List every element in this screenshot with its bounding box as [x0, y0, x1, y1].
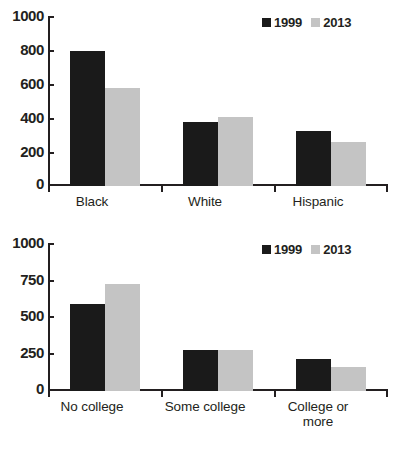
- x-tick-1-bottom: [161, 391, 163, 397]
- x-tick-2-top: [274, 186, 276, 192]
- y-label-0-bottom: 0: [36, 381, 44, 396]
- bar-hispanic-1999: [296, 131, 331, 186]
- y-label-400-top: 400: [20, 110, 44, 125]
- y-tick-800-top: [48, 50, 54, 52]
- y-axis-line-top: [48, 16, 50, 186]
- x-tick-3-bottom: [386, 391, 388, 397]
- x-tick-2-bottom: [274, 391, 276, 397]
- y-tick-750-bottom: [48, 280, 54, 282]
- x-category-label-no-college: No college: [37, 399, 147, 414]
- bar-college-or-more-1999: [296, 359, 331, 391]
- chart-panel-education: 1999 2013 1000 750 500 250 0: [0, 227, 403, 454]
- bar-no-college-2013: [105, 284, 140, 391]
- x-tick-0-top: [48, 186, 50, 192]
- bar-black-1999: [70, 51, 105, 186]
- y-label-250-bottom: 250: [20, 345, 44, 360]
- x-category-label-hispanic: Hispanic: [268, 194, 368, 209]
- y-tick-400-top: [48, 118, 54, 120]
- bar-no-college-1999: [70, 304, 105, 391]
- x-tick-3-top: [386, 186, 388, 192]
- x-category-label-some-college: Some college: [150, 399, 260, 414]
- y-label-1000-bottom: 1000: [12, 235, 44, 250]
- chart-panel-race: 1999 2013 1000 800 600 400 200 0: [0, 0, 403, 227]
- bar-some-college-2013: [218, 350, 253, 391]
- y-tick-1000-top: [48, 16, 54, 18]
- bar-white-2013: [218, 117, 253, 186]
- bar-black-2013: [105, 88, 140, 186]
- bar-white-1999: [183, 122, 218, 186]
- y-tick-600-top: [48, 84, 54, 86]
- chart-page: 1999 2013 1000 800 600 400 200 0: [0, 0, 403, 454]
- x-category-label-white: White: [155, 194, 255, 209]
- y-tick-1000-bottom: [48, 243, 54, 245]
- y-tick-500-bottom: [48, 316, 54, 318]
- plot-area-education: 1000 750 500 250 0: [48, 243, 388, 391]
- plot-area-race: 1000 800 600 400 200 0: [48, 16, 388, 186]
- bar-hispanic-2013: [331, 142, 366, 186]
- bar-some-college-1999: [183, 350, 218, 391]
- bar-college-or-more-2013: [331, 367, 366, 391]
- x-tick-1-top: [161, 186, 163, 192]
- y-tick-200-top: [48, 152, 54, 154]
- y-label-600-top: 600: [20, 76, 44, 91]
- y-label-1000-top: 1000: [12, 8, 44, 23]
- x-category-label-black: Black: [42, 194, 142, 209]
- y-label-200-top: 200: [20, 144, 44, 159]
- x-category-label-college-or-more: College or more: [263, 399, 373, 429]
- y-label-0-top: 0: [36, 176, 44, 191]
- y-label-500-bottom: 500: [20, 308, 44, 323]
- y-label-800-top: 800: [20, 42, 44, 57]
- x-tick-0-bottom: [48, 391, 50, 397]
- y-label-750-bottom: 750: [20, 272, 44, 287]
- y-tick-250-bottom: [48, 353, 54, 355]
